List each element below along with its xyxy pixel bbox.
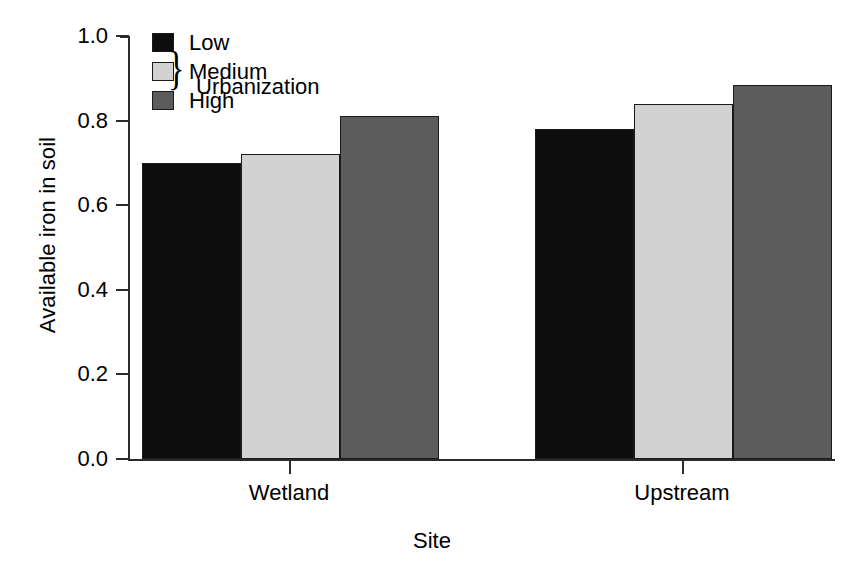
x-tick-mark: [682, 461, 684, 474]
x-tick-mark: [289, 461, 291, 474]
x-tick-label-upstream: Upstream: [572, 480, 792, 506]
y-tick-mark: [116, 373, 129, 375]
x-axis-title: Site: [0, 528, 864, 554]
x-axis-line: [128, 459, 835, 461]
bar-wetland-medium: [241, 154, 340, 459]
y-tick-mark: [116, 289, 129, 291]
y-tick-mark: [116, 120, 129, 122]
y-tick-label: 1.0: [46, 25, 108, 47]
y-tick-label: 0.2: [46, 363, 108, 385]
y-tick-mark: [116, 204, 129, 206]
y-axis-line: [128, 36, 130, 460]
y-tick-label: 0.8: [46, 110, 108, 132]
y-tick-label: 0.4: [46, 279, 108, 301]
legend-label-low: Low: [189, 32, 229, 54]
y-tick-mark: [116, 35, 129, 37]
bar-upstream-high: [733, 85, 832, 459]
bar-wetland-low: [142, 163, 241, 459]
legend-brace-icon: }: [168, 46, 185, 92]
y-tick-label: 0.0: [46, 448, 108, 470]
bar-wetland-high: [340, 116, 439, 459]
y-tick-label: 0.6: [46, 194, 108, 216]
bar-upstream-low: [535, 129, 634, 459]
bar-upstream-medium: [634, 104, 733, 459]
bar-chart: Available iron in soil 0.00.20.40.60.81.…: [0, 0, 864, 579]
x-tick-label-wetland: Wetland: [179, 480, 399, 506]
legend-group-title: Urbanization: [196, 74, 320, 100]
